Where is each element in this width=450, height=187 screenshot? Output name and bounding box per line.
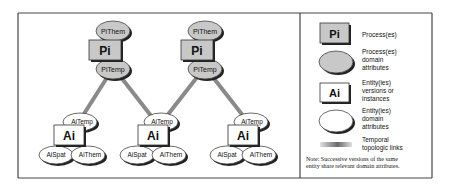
- entity-box-label: Ai: [63, 129, 75, 143]
- link-p0-e0: [82, 76, 108, 117]
- entity-spatial-label: AiSpat: [127, 151, 146, 159]
- entity-box-label: Ai: [147, 129, 159, 143]
- entity-theme-label: AiThem: [79, 151, 101, 158]
- legend-note-line: entity share relevant domain attributes.: [306, 163, 400, 169]
- svg-text:domain: domain: [362, 115, 384, 122]
- temporal-links: [82, 76, 244, 117]
- legend-note-line: Note: Successive versions of the same: [306, 156, 398, 162]
- entity-node: AiTemp AiSpat AiThem Ai: [120, 113, 188, 166]
- diagram-canvas: PiThem PiTemp Pi PiThem PiTemp Pi AiTemp…: [0, 0, 450, 187]
- legend-item-process: Pi Process(es): [320, 23, 397, 45]
- svg-text:domain: domain: [362, 56, 384, 63]
- svg-text:versions or: versions or: [362, 87, 395, 94]
- link-p1-e1: [166, 76, 198, 117]
- entity-box-label: Ai: [237, 129, 249, 143]
- entity-theme-label: AiThem: [160, 151, 182, 158]
- legend: Pi Process(es) Process(es) domain attrib…: [306, 23, 404, 169]
- entity-spatial-label: AiSpat: [46, 151, 65, 159]
- svg-text:Ai: Ai: [329, 87, 340, 99]
- entity-spatial-label: AiSpat: [217, 151, 236, 159]
- link-p1-e2: [212, 76, 244, 117]
- svg-text:topologic links: topologic links: [362, 144, 404, 152]
- svg-text:Entity(ies): Entity(ies): [362, 79, 391, 87]
- process-box-label: Pi: [191, 44, 202, 58]
- entity-node: AiTemp AiSpat AiThem Ai: [210, 113, 278, 166]
- entity-node: AiTemp AiSpat AiThem Ai: [39, 113, 107, 166]
- link-p0-e1: [120, 76, 152, 117]
- process-node: PiThem PiTemp Pi: [181, 21, 224, 81]
- svg-text:instances: instances: [362, 95, 390, 102]
- legend-item-temporal-link: Temporal topologic links: [320, 136, 404, 152]
- legend-item-process-attributes: Process(es) domain attributes: [319, 48, 397, 75]
- svg-text:Pi: Pi: [329, 28, 339, 40]
- process-theme-label: PiThem: [193, 28, 217, 35]
- svg-text:attributes: attributes: [362, 123, 389, 130]
- entity-theme-label: AiThem: [250, 151, 272, 158]
- svg-text:Process(es): Process(es): [362, 48, 397, 56]
- svg-text:Temporal: Temporal: [362, 136, 389, 144]
- svg-text:Entity(ies): Entity(ies): [362, 107, 391, 115]
- legend-item-entity-attributes: Entity(ies) domain attributes: [319, 107, 391, 134]
- process-box-label: Pi: [99, 44, 110, 58]
- legend-item-entity: Ai Entity(ies) versions or instances: [320, 79, 395, 104]
- svg-text:attributes: attributes: [362, 64, 389, 71]
- svg-text:Process(es): Process(es): [362, 31, 397, 39]
- process-temp-label: PiTemp: [101, 66, 124, 74]
- process-temp-label: PiTemp: [193, 66, 216, 74]
- process-theme-label: PiThem: [101, 28, 125, 35]
- process-node: PiThem PiTemp Pi: [89, 21, 132, 81]
